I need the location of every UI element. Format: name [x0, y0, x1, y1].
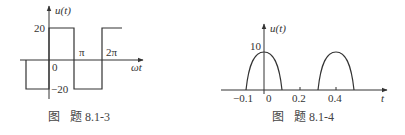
figure-square-wave: u(t) 20 −20 0 π 2π ωt 图 题 8.1-3	[20, 4, 143, 124]
x-tick-0.4: 0.4	[328, 92, 342, 104]
square-waveform	[26, 28, 122, 89]
figures-canvas: u(t) 20 −20 0 π 2π ωt 图 题 8.1-3 u(t) 10 …	[0, 0, 405, 135]
y-tick-10: 10	[250, 40, 262, 52]
y-tick-minus-20: −20	[51, 83, 69, 95]
x-tick-minus-0.1: −0.1	[233, 92, 253, 104]
y-axis-label: u(t)	[270, 22, 286, 35]
x-tick-0.2: 0.2	[292, 92, 306, 104]
pulse-2	[318, 52, 354, 90]
y-tick-20: 20	[34, 22, 46, 34]
figure-cosine-pulses: u(t) 10 −0.1 0 0.2 0.4 t 图 题 8.1-4	[221, 22, 387, 124]
x-axis-label: ωt	[131, 61, 143, 73]
x-axis-label: t	[381, 92, 385, 104]
y-axis-label: u(t)	[55, 4, 71, 17]
figure-caption-title: 题 8.1-3	[70, 110, 110, 124]
figure-caption-prefix: 图	[48, 110, 60, 124]
x-tick-2pi: 2π	[106, 46, 118, 58]
origin-label: 0	[52, 61, 58, 73]
figure-caption-prefix: 图	[272, 110, 284, 124]
figure-caption-title: 题 8.1-4	[294, 110, 334, 124]
x-tick-0: 0	[266, 92, 272, 104]
x-tick-pi: π	[79, 46, 85, 58]
